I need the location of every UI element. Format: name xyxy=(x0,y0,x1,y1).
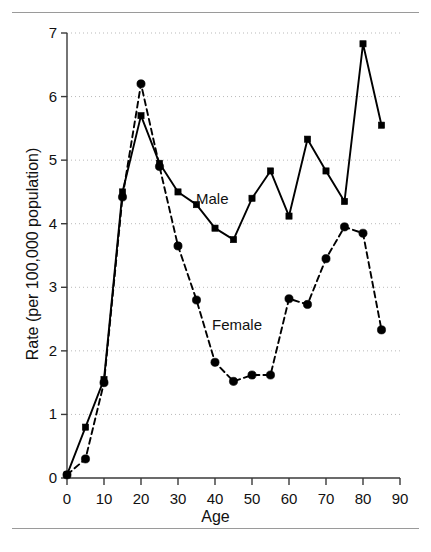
series-annotation-male: Male xyxy=(196,190,229,207)
x-axis-tick-label: 40 xyxy=(200,491,230,506)
bottom-divider-rule xyxy=(12,528,419,529)
x-axis-tick-label: 90 xyxy=(385,491,415,506)
series-markers-female xyxy=(63,80,386,479)
y-axis-tick-label: 7 xyxy=(35,25,57,40)
y-axis-tick-label: 0 xyxy=(35,470,57,485)
series-annotation-female: Female xyxy=(212,316,262,333)
y-axis-tick-label: 6 xyxy=(35,89,57,104)
y-axis-title: Rate (per 100,000 population) xyxy=(24,124,42,384)
figure-caption xyxy=(12,542,419,552)
x-axis-tick-label: 20 xyxy=(126,491,156,506)
x-axis-tick-label: 60 xyxy=(274,491,304,506)
series-line-male xyxy=(67,44,382,475)
axis-ticks-group xyxy=(61,33,400,485)
x-axis-tick-label: 70 xyxy=(311,491,341,506)
line-chart-plot xyxy=(0,0,431,552)
x-axis-tick-label: 50 xyxy=(237,491,267,506)
x-axis-tick-label: 30 xyxy=(163,491,193,506)
x-axis-tick-label: 0 xyxy=(52,491,82,506)
gridlines-group xyxy=(67,33,400,414)
y-axis-tick-label: 1 xyxy=(35,406,57,421)
figure-container: 01234567 0102030405060708090 Age Rate (p… xyxy=(0,0,431,552)
x-axis-tick-label: 80 xyxy=(348,491,378,506)
x-axis-title: Age xyxy=(0,508,431,526)
x-axis-tick-label: 10 xyxy=(89,491,119,506)
series-markers-male xyxy=(64,41,385,478)
